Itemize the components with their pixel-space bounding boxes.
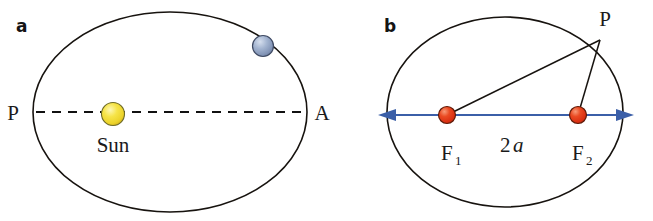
focus-2-subscript: 2 [586,153,593,168]
panel-b-label: b [384,16,396,36]
panel-a-label: a [16,16,27,36]
focus-1-letter: F [441,141,453,165]
perihelion-label-p: P [7,101,19,125]
panel-b-group: b F 1 F 2 2 a [378,7,634,207]
segment-f2-to-p [578,40,600,115]
focus-dot-icon-f2 [570,107,587,124]
figure-svg: a P A Sun b F 1 [0,0,653,221]
focus-dot-icon-f1 [439,107,456,124]
focus-2-letter: F [572,141,584,165]
figure-root: a P A Sun b F 1 [0,0,653,221]
aphelion-label-a: A [314,101,330,125]
focus-1-label: F 1 [441,141,462,168]
planet-sphere-icon [253,36,274,57]
arrow-right-icon [616,109,634,121]
segment-f1-to-p [447,40,600,115]
panel-a-group: a P A Sun [7,12,330,212]
focus-1-subscript: 1 [455,153,462,168]
focus-2-label: F 2 [572,141,593,168]
major-axis-symbol: a [513,133,524,157]
major-axis-length-label: 2 a [500,133,524,157]
point-p-label: P [599,7,611,31]
sun-label: Sun [97,133,130,157]
sun-sphere-icon [102,103,125,126]
major-axis-number: 2 [500,133,511,157]
